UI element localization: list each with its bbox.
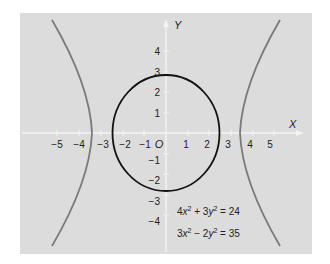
x-tick-label: 1 (183, 139, 189, 150)
y-tick-label: 1 (154, 108, 160, 119)
x-axis-arrow-icon (296, 130, 304, 136)
y-tick-label: 4 (154, 46, 160, 57)
y-tick-label: −1 (149, 155, 161, 166)
conic-sections-plot: −5 −4 −3 −2 −1 1 2 3 4 5 O 4 3 2 1 −1 −2… (0, 0, 330, 264)
ellipse-equation: 4x2 + 3y2 = 24 (177, 205, 240, 217)
y-tick-label: 2 (154, 87, 160, 98)
x-axis-label: X (288, 118, 297, 130)
origin-label: O (155, 138, 164, 150)
x-tick-label: 2 (204, 139, 210, 150)
x-tick-label: −2 (119, 139, 131, 150)
x-tick-label: 3 (225, 139, 231, 150)
y-tick-label: −3 (149, 196, 161, 207)
x-tick-label: −4 (73, 139, 85, 150)
x-tick-label: −5 (51, 139, 63, 150)
hyperbola-equation: 3x2 − 2y2 = 35 (177, 227, 240, 239)
y-axis-label: Y (174, 19, 182, 31)
x-tick-label: 5 (267, 139, 273, 150)
y-axis-arrow-icon (163, 19, 169, 27)
y-tick-label: −4 (149, 216, 161, 227)
x-tick-label: −1 (139, 139, 151, 150)
x-tick-label: −3 (97, 139, 109, 150)
x-tick-label: 4 (247, 139, 253, 150)
y-tick-label: −2 (149, 175, 161, 186)
y-tick-label: 3 (154, 67, 160, 78)
